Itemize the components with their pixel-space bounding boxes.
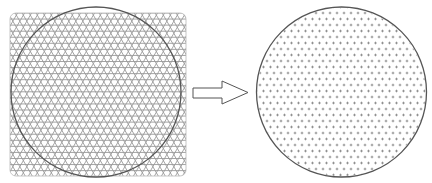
diagram-canvas — [0, 0, 432, 183]
right-arrow-icon — [193, 81, 248, 104]
right-node-panel — [255, 6, 426, 177]
circle-boundary-right — [257, 7, 427, 177]
